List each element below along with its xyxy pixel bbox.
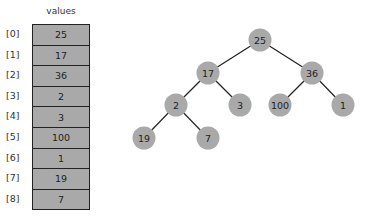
node-label: 19	[138, 133, 150, 144]
tree-nodes: 251736231001197	[133, 29, 355, 150]
node-label: 1	[340, 100, 346, 111]
tree-node: 7	[197, 127, 220, 150]
tree-node: 2	[165, 94, 188, 117]
node-label: 7	[205, 133, 211, 144]
node-label: 3	[237, 100, 243, 111]
binary-tree: 251736231001197	[0, 0, 376, 224]
node-label: 100	[271, 100, 289, 111]
node-label: 25	[254, 35, 266, 46]
tree-node: 3	[229, 94, 252, 117]
tree-node: 1	[332, 94, 355, 117]
tree-node: 100	[269, 94, 292, 117]
tree-edges	[144, 40, 343, 138]
tree-node: 36	[301, 62, 324, 85]
tree-node: 17	[197, 62, 220, 85]
tree-node: 25	[249, 29, 272, 52]
node-label: 36	[306, 68, 318, 79]
node-label: 17	[202, 68, 214, 79]
node-label: 2	[173, 100, 179, 111]
tree-node: 19	[133, 127, 156, 150]
